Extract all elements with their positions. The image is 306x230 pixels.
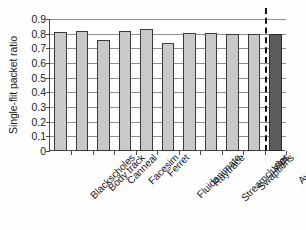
y-tick-label: 0.7 <box>18 43 46 53</box>
y-tick-label: 0.5 <box>18 73 46 83</box>
y-tick-label: 0.8 <box>18 29 46 39</box>
x-axis-label: Average <box>296 152 306 186</box>
bar <box>119 31 132 151</box>
bars-group <box>50 19 286 151</box>
x-axis-category-labels: BlackscholesBody trackCannealFacesimFerr… <box>49 152 299 230</box>
bar <box>248 34 261 151</box>
bar <box>162 43 175 151</box>
bar <box>97 40 110 151</box>
bar <box>205 33 218 151</box>
bar <box>183 33 196 151</box>
average-separator-dashed-line <box>265 8 267 151</box>
y-tick-label: 0 <box>18 146 46 156</box>
bar <box>76 31 89 151</box>
bar <box>226 34 239 151</box>
bar <box>140 29 153 151</box>
y-tick-label: 0.2 <box>18 117 46 127</box>
y-tick-label: 0.9 <box>18 14 46 24</box>
y-tick-label: 0.4 <box>18 87 46 97</box>
y-tick-label: 0.6 <box>18 58 46 68</box>
bar-average <box>269 34 282 151</box>
y-tick-label: 0.1 <box>18 131 46 141</box>
bar <box>54 32 67 151</box>
y-tick-label: 0.3 <box>18 102 46 112</box>
y-axis-tick-labels: 00.10.20.30.40.50.60.70.80.9 <box>18 19 46 151</box>
plot-area <box>49 19 285 151</box>
chart-container: Single-flit packet ratio 00.10.20.30.40.… <box>0 0 306 230</box>
